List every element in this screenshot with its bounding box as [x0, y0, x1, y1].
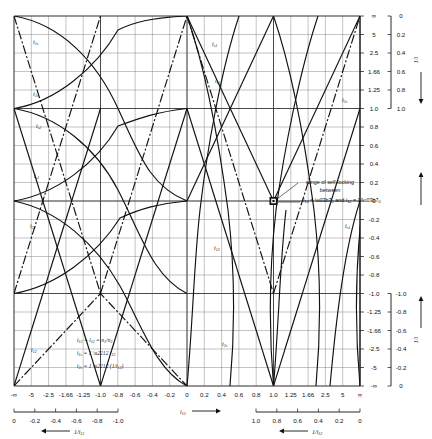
axis-tick-label: 5 [341, 391, 345, 398]
axis-tick-label: -0.2 [369, 216, 380, 223]
right-lower-axis-name: 1/i [413, 337, 419, 344]
axis-tick-label: 0.4 [370, 160, 379, 167]
axis-tick-label: 0.2 [335, 417, 344, 424]
axis-tick-label: ∞ [358, 391, 362, 398]
right-upper-axis-name: 1/i [413, 57, 419, 64]
bottom-axis-main: -∞-5-2.5-1.66-1.25-1.0-0.8-0.6-0.4-0.200… [11, 391, 362, 398]
axis-tick-label: -0.6 [71, 417, 82, 424]
axis-tick-label: 0.6 [293, 417, 302, 424]
axis-tick-label: 0.8 [370, 123, 379, 130]
axis-tick-label: -∞ [11, 391, 17, 398]
axis-tick-label: 1.0 [397, 105, 406, 112]
axis-tick-label: 1.0 [252, 417, 261, 424]
axis-tick-label: 0 [358, 417, 362, 424]
axis-tick-label: -0.2 [396, 364, 407, 371]
axis-tick-label: -0.2 [29, 417, 40, 424]
axis-tick-label: 2.5 [321, 391, 330, 398]
axis-tick-label: -1.66 [59, 391, 74, 398]
axis-tick-label: 0 [12, 417, 16, 424]
axis-tick-label: 0.4 [217, 391, 226, 398]
axis-tick-label: -0.8 [92, 417, 103, 424]
axis-tick-label: -1.0 [369, 290, 380, 297]
axis-tick-label: 1.25 [368, 86, 381, 93]
axis-tick-label: -5 [29, 391, 35, 398]
axis-tick-label: 0.4 [314, 417, 323, 424]
axis-tick-label: 0 [185, 391, 189, 398]
annotation-line-2: between [320, 187, 340, 193]
axis-tick-label: ∞ [372, 12, 376, 19]
axis-tick-label: 1.0 [370, 105, 379, 112]
axis-tick-label: -0.8 [396, 308, 407, 315]
axis-tick-label: -1.66 [367, 327, 382, 334]
axis-tick-label: -0.6 [369, 253, 380, 260]
axis-tick-label: -1.0 [113, 417, 124, 424]
axis-tick-label: -0.2 [164, 391, 175, 398]
axis-tick-label: -0.8 [112, 391, 123, 398]
axis-tick-label: -2.5 [369, 345, 380, 352]
axis-tick-label: 0.2 [397, 31, 406, 38]
axis-tick-label: 5 [372, 31, 376, 38]
axis-tick-label: -0.4 [147, 391, 158, 398]
axis-tick-label: 0.6 [370, 142, 379, 149]
axis-tick-label: 2.5 [370, 49, 379, 56]
annotation-line-1: range of self-locking [306, 179, 354, 185]
axis-tick-label: -1.25 [367, 308, 382, 315]
axis-tick-label: 1.0 [269, 391, 278, 398]
axis-tick-label: 1.25 [285, 391, 298, 398]
axis-tick-label: 0 [372, 197, 376, 204]
axis-tick-label: -1.25 [76, 391, 91, 398]
axis-tick-label: 1.66 [302, 391, 315, 398]
axis-tick-label: -2.5 [43, 391, 54, 398]
axis-tick-label: -0.4 [50, 417, 61, 424]
axis-tick-label: 0.8 [252, 391, 261, 398]
axis-tick-label: -0.6 [130, 391, 141, 398]
nomogram-figure: range of self-locking between i12 = \u03… [0, 0, 432, 439]
axis-tick-label: -5 [371, 364, 377, 371]
nomogram-svg: range of self-locking between i12 = \u03… [0, 0, 432, 439]
axis-tick-label: -∞ [371, 382, 377, 389]
axis-tick-label: 1.66 [368, 68, 381, 75]
axis-tick-label: 0.2 [200, 391, 209, 398]
axis-tick-label: -0.4 [369, 234, 380, 241]
axis-tick-label: -0.6 [396, 327, 407, 334]
axis-tick-label: 0.2 [370, 179, 379, 186]
axis-tick-label: -1.0 [95, 391, 106, 398]
axis-tick-label: 0.8 [397, 86, 406, 93]
axis-tick-label: 0.4 [397, 49, 406, 56]
axis-tick-label: 0.8 [272, 417, 281, 424]
axis-tick-label: -1.0 [396, 290, 407, 297]
axis-tick-label: 0.6 [397, 68, 406, 75]
axis-tick-label: -0.4 [396, 345, 407, 352]
axis-tick-label: 0 [399, 382, 403, 389]
axis-tick-label: 0 [399, 12, 403, 19]
axis-tick-label: 0.6 [235, 391, 244, 398]
axis-tick-label: -0.8 [369, 271, 380, 278]
